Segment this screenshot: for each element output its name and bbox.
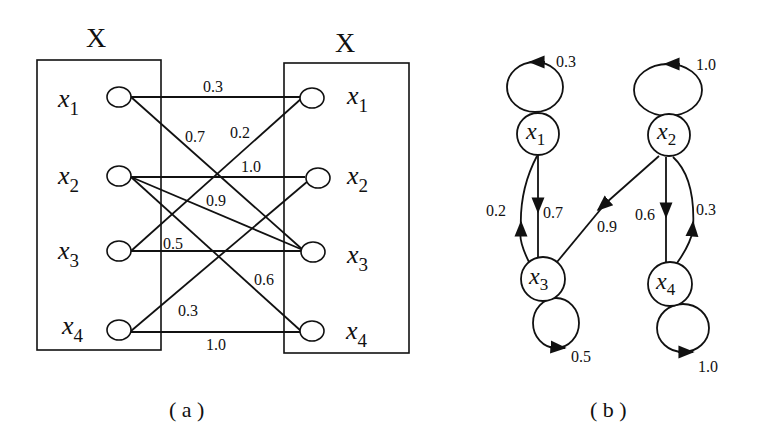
edge-b-x2-x3: [598, 156, 659, 210]
svg-text:x4: x4: [61, 311, 84, 346]
weight-x3-x1: 0.2: [230, 124, 250, 141]
weight-x2-x3: 0.9: [206, 192, 226, 209]
left-set-box: [37, 60, 161, 350]
svg-text:x3: x3: [346, 240, 368, 275]
weight-b-x2-x3: 0.9: [597, 218, 617, 235]
edge-b-x4-x2: [673, 157, 693, 263]
panel-b: [507, 62, 709, 352]
svg-text:x4: x4: [345, 316, 368, 351]
left-node-x4[interactable]: [107, 320, 131, 340]
caption-a: ( a ): [169, 397, 204, 422]
left-node-labels: x1 x2 x3 x4: [57, 84, 84, 346]
weight-x1-x3: 0.7: [185, 128, 205, 145]
loop-weight-x4: 1.0: [698, 358, 718, 375]
svg-text:x2: x2: [57, 161, 79, 196]
svg-text:x1: x1: [57, 84, 79, 119]
left-node-x2[interactable]: [107, 166, 131, 186]
right-set-title: X: [335, 27, 355, 58]
left-node-x1[interactable]: [107, 87, 131, 107]
edge-weights-a: 0.3 0.7 0.2 1.0 0.9 0.5 0.6 0.3 1.0: [163, 78, 274, 353]
weight-x3-x3: 0.5: [163, 235, 183, 252]
left-node-x3[interactable]: [107, 241, 131, 261]
weight-x4-x4: 1.0: [206, 336, 226, 353]
edge-x2-x3: [131, 177, 303, 250]
weight-x2-x2: 1.0: [241, 158, 261, 175]
weight-b-x1-x3: 0.7: [543, 204, 563, 221]
svg-text:x2: x2: [346, 161, 368, 196]
edge-b-x3-x1: [520, 156, 537, 262]
right-node-labels: x1 x2 x3 x4: [345, 81, 368, 351]
svg-text:x3: x3: [57, 236, 79, 271]
bipartite-edges: [119, 97, 308, 332]
self-loop-x4: [657, 304, 709, 352]
self-loop-x2: [634, 64, 702, 116]
weight-b-x2-x4: 0.6: [635, 206, 655, 223]
right-node-x4[interactable]: [300, 321, 324, 341]
right-node-x1[interactable]: [300, 88, 324, 108]
weight-b-x4-x2: 0.3: [696, 201, 716, 218]
loop-weight-x1: 0.3: [556, 53, 576, 70]
self-loop-x3: [533, 298, 579, 348]
right-node-x2[interactable]: [306, 168, 330, 188]
svg-text:x1: x1: [346, 81, 368, 116]
self-loop-x1: [507, 62, 563, 112]
loop-weight-x2: 1.0: [696, 56, 716, 73]
caption-b: ( b ): [590, 397, 627, 422]
loop-weight-x3: 0.5: [571, 348, 591, 365]
weight-b-x3-x1: 0.2: [486, 202, 506, 219]
left-set-title: X: [86, 22, 106, 53]
weight-x2-x4: 0.6: [254, 271, 274, 288]
weight-x4-x2: 0.3: [178, 302, 198, 319]
weight-x1-x1: 0.3: [203, 78, 223, 95]
right-node-x3[interactable]: [301, 242, 325, 262]
